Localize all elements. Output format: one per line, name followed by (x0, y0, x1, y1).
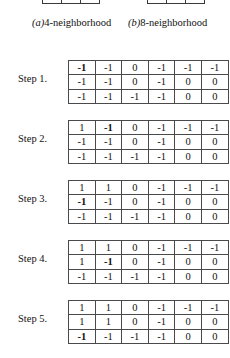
matrix-cell: 1 (69, 315, 96, 329)
caption-text: 4-neighborhood (44, 17, 111, 28)
caption-tag: (b) (128, 17, 140, 28)
matrix-cell: 1 (69, 255, 96, 269)
matrix-cell: 1 (95, 181, 122, 195)
matrix-cell: 0 (122, 195, 149, 209)
table-row: 1-10-1-1-1 (69, 121, 229, 135)
matrix-cell: -1 (122, 269, 149, 283)
matrix-cell: 0 (201, 209, 228, 223)
step-row: Step 3.110-1-1-1-1-10-100-1-1-1-100 (0, 178, 230, 223)
step-row: Step 1.-1-10-1-1-1-1-10-100-1-1-1-100 (0, 58, 230, 103)
matrix-cell: -1 (69, 209, 96, 223)
step-label: Step 2. (18, 132, 47, 145)
step-label: Step 3. (18, 192, 47, 205)
matrix-cell: 0 (175, 135, 202, 149)
matrix-cell: 0 (122, 135, 149, 149)
matrix-cell: -1 (95, 149, 122, 163)
table-row: -1-1-1-100 (69, 149, 229, 163)
matrix-cell: -1 (175, 181, 202, 195)
neighborhood-cell: 7 (167, 0, 186, 4)
matrix-cell: 0 (122, 61, 149, 75)
matrix-cell: -1 (122, 329, 149, 343)
matrix-cell: -1 (148, 181, 175, 195)
step-row: Step 5.110-1-1-1110-100-1-1-1-100 (0, 298, 230, 343)
matrix-cell: -1 (95, 329, 122, 343)
table-row: 6 7 8 (148, 0, 205, 4)
matrix-cell: 0 (201, 329, 228, 343)
matrix-cell: -1 (148, 269, 175, 283)
caption-8-neighborhood: (b)8-neighborhood (128, 16, 207, 29)
matrix-cell: 0 (122, 255, 149, 269)
neighborhood-grid-4: 4 (42, 0, 100, 4)
matrix-cell: 1 (69, 301, 96, 315)
matrix-cell: -1 (69, 89, 96, 103)
matrix-cell: 0 (175, 195, 202, 209)
matrix-cell: 0 (201, 315, 228, 329)
matrix-cell: -1 (148, 195, 175, 209)
table-row: -1-1-1-100 (69, 269, 229, 283)
matrix-cell: 0 (122, 315, 149, 329)
matrix-cell: -1 (175, 61, 202, 75)
matrix-cell: -1 (148, 75, 175, 89)
matrix-cell: -1 (148, 329, 175, 343)
neighborhood-figures: 4 6 7 8 (a)4-neighborhood (b)8-neighborh… (0, 0, 230, 32)
matrix-cell: -1 (201, 121, 228, 135)
matrix-cell: 0 (122, 121, 149, 135)
matrix-cell: 1 (95, 241, 122, 255)
matrix-cell: -1 (148, 149, 175, 163)
matrix-cell: 0 (175, 255, 202, 269)
neighborhood-figure-4: 4 (42, 0, 100, 4)
matrix-cell: -1 (95, 89, 122, 103)
matrix-cell: -1 (69, 135, 96, 149)
neighborhood-figure-8: 6 7 8 (147, 0, 205, 4)
matrix-cell: -1 (95, 75, 122, 89)
matrix-cell: 0 (122, 75, 149, 89)
table-row: 4 (43, 0, 100, 4)
matrix-cell: 0 (201, 269, 228, 283)
step-matrix: 110-1-1-1-1-10-100-1-1-1-100 (68, 180, 229, 224)
matrix-cell: 0 (122, 241, 149, 255)
matrix-cell: -1 (175, 301, 202, 315)
matrix-cell: 1 (69, 121, 96, 135)
matrix-cell: -1 (175, 241, 202, 255)
matrix-cell: -1 (148, 209, 175, 223)
table-row: -1-10-1-1-1 (69, 61, 229, 75)
matrix-cell: -1 (95, 135, 122, 149)
matrix-cell: -1 (148, 135, 175, 149)
matrix-cell: 1 (69, 241, 96, 255)
matrix-cell: 0 (175, 315, 202, 329)
matrix-cell: -1 (148, 315, 175, 329)
table-row: -1-1-1-100 (69, 89, 229, 103)
matrix-cell: 0 (122, 181, 149, 195)
table-row: -1-1-1-100 (69, 209, 229, 223)
step-matrix: -1-10-1-1-1-1-10-100-1-1-1-100 (68, 60, 229, 104)
matrix-cell-active: -1 (95, 121, 122, 135)
matrix-cell: -1 (201, 301, 228, 315)
matrix-cell: -1 (148, 241, 175, 255)
step-matrix: 110-1-1-11-10-100-1-1-1-100 (68, 240, 229, 284)
matrix-cell: -1 (95, 209, 122, 223)
step-matrix: 1-10-1-1-1-1-10-100-1-1-1-100 (68, 120, 229, 164)
table-row: -1-10-100 (69, 135, 229, 149)
matrix-cell: -1 (148, 89, 175, 103)
table-row: 110-1-1-1 (69, 301, 229, 315)
matrix-cell: -1 (201, 241, 228, 255)
step-label: Step 4. (18, 252, 47, 265)
matrix-cell: 0 (201, 195, 228, 209)
step-row: Step 4.110-1-1-11-10-100-1-1-1-100 (0, 238, 230, 283)
matrix-cell: -1 (201, 181, 228, 195)
matrix-cell: -1 (148, 255, 175, 269)
matrix-cell: -1 (122, 209, 149, 223)
matrix-cell: -1 (148, 121, 175, 135)
matrix-cell: 0 (175, 89, 202, 103)
matrix-cell: 0 (175, 149, 202, 163)
matrix-cell: 1 (95, 315, 122, 329)
matrix-cell: -1 (175, 121, 202, 135)
step-matrix: 110-1-1-1110-100-1-1-1-100 (68, 300, 229, 344)
matrix-cell: -1 (69, 149, 96, 163)
matrix-cell: 0 (175, 209, 202, 223)
matrix-cell: -1 (122, 89, 149, 103)
neighborhood-cell (81, 0, 100, 4)
matrix-cell: 0 (175, 329, 202, 343)
table-row: 110-1-1-1 (69, 241, 229, 255)
matrix-cell: 0 (201, 75, 228, 89)
